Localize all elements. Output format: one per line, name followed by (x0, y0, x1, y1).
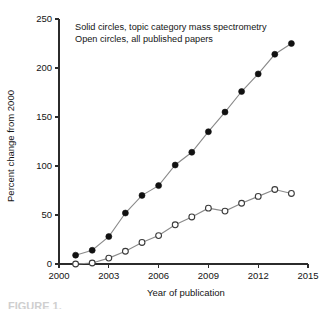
data-point (239, 89, 245, 95)
data-point (156, 233, 162, 239)
y-tick-label: 50 (41, 209, 52, 220)
figure-container: Solid circles, topic category mass spect… (0, 0, 326, 309)
x-tick-label: 2000 (48, 270, 69, 281)
data-point (206, 205, 212, 211)
publication-growth-line-chart: Solid circles, topic category mass spect… (0, 0, 326, 309)
x-tick-label: 2015 (297, 270, 318, 281)
data-point (255, 71, 261, 77)
data-point (239, 200, 245, 206)
data-point (122, 210, 128, 216)
data-point (272, 51, 278, 57)
data-point (222, 208, 228, 214)
y-tick-label: 0 (47, 258, 52, 269)
data-point (289, 191, 295, 197)
x-axis-title: Year of publication (147, 287, 225, 298)
data-point (172, 162, 178, 168)
data-point (156, 183, 162, 189)
x-tick-label: 2009 (198, 270, 219, 281)
data-point (172, 222, 178, 228)
data-point (73, 252, 79, 258)
y-tick-label: 200 (36, 62, 52, 73)
data-point (189, 149, 195, 155)
x-tick-label: 2006 (148, 270, 169, 281)
data-point (89, 260, 95, 266)
series-markers (73, 41, 295, 267)
series-line-open (76, 190, 292, 264)
chart-legend: Solid circles, topic category mass spect… (75, 22, 267, 44)
y-tick-label: 100 (36, 160, 52, 171)
data-point (189, 214, 195, 220)
x-axis: 200020032006200920122015 (48, 264, 318, 281)
data-point (288, 41, 294, 47)
y-axis: 050100150200250 (36, 13, 59, 269)
y-tick-label: 150 (36, 111, 52, 122)
legend-entry-open-circles: Open circles, all published papers (75, 34, 213, 44)
data-point (106, 255, 112, 261)
data-point (205, 129, 211, 135)
data-point (89, 247, 95, 253)
data-point (139, 192, 145, 198)
data-point (106, 234, 112, 240)
data-point (139, 240, 145, 246)
data-point (255, 193, 261, 199)
data-point (73, 261, 79, 267)
data-point (272, 187, 278, 193)
x-tick-label: 2003 (98, 270, 119, 281)
x-tick-label: 2012 (248, 270, 269, 281)
y-tick-label: 250 (36, 13, 52, 24)
data-point (123, 248, 129, 254)
data-point (222, 109, 228, 115)
legend-entry-solid-circles: Solid circles, topic category mass spect… (75, 22, 267, 32)
figure-caption-fragment: FIGURE 1. (8, 301, 158, 309)
y-axis-title: Percent change from 2000 (5, 90, 16, 202)
